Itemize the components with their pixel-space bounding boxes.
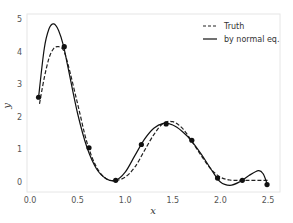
x-tick-label: 1.5	[166, 196, 179, 205]
x-tick-label: 1.0	[119, 196, 132, 205]
legend-truth-label: Truth	[223, 22, 244, 31]
sample-point	[264, 182, 269, 187]
sample-point	[36, 95, 41, 100]
x-axis-ticks: 0.00.51.01.52.02.5	[24, 196, 275, 205]
x-tick-label: 0.5	[71, 196, 84, 205]
y-tick-label: 0	[17, 178, 22, 187]
y-tick-label: 2	[17, 113, 22, 122]
y-tick-label: 3	[17, 80, 22, 89]
sample-point	[113, 178, 118, 183]
sample-point	[189, 138, 194, 143]
chart: 012345 0.00.51.01.52.02.5 x y Truth by n…	[0, 0, 293, 223]
y-tick-label: 1	[17, 145, 22, 154]
y-axis-label: y	[1, 103, 12, 110]
y-axis-ticks: 012345	[17, 15, 22, 187]
y-tick-label: 5	[17, 15, 22, 24]
y-tick-label: 4	[17, 48, 22, 57]
sample-point	[62, 44, 67, 49]
legend-fit-label: by normal eq.	[224, 35, 279, 44]
sample-point	[215, 175, 220, 180]
sample-point	[86, 145, 91, 150]
x-tick-label: 2.0	[214, 196, 227, 205]
x-tick-label: 0.0	[24, 196, 37, 205]
x-tick-label: 2.5	[262, 196, 275, 205]
sample-point	[240, 178, 245, 183]
sample-point	[139, 142, 144, 147]
x-axis-label: x	[150, 205, 156, 216]
sample-point	[164, 121, 169, 126]
